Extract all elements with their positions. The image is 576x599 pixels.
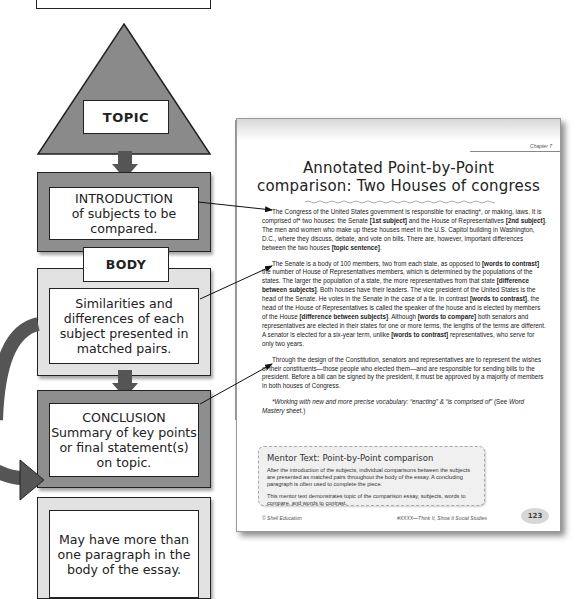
footer-book-title: #XXXX—Think It, Show It Social Studies xyxy=(397,515,487,521)
title-underline xyxy=(305,199,495,205)
mentor-text-box: Mentor Text: Point-by-Point comparison A… xyxy=(258,446,485,506)
title-line-2: comparison: Two Houses of congress xyxy=(237,177,560,195)
topic-label: TOPIC xyxy=(83,100,169,134)
introduction-box: INTRODUCTION of subjects to be compared. xyxy=(49,187,199,240)
conclusion-text: Summary of key points or final statement… xyxy=(50,425,198,470)
page-number: 123 xyxy=(521,508,549,524)
footer-publisher: © Shell Education xyxy=(262,515,302,521)
chapter-rule xyxy=(470,151,560,152)
paragraph-body: The Senate is a body of 100 members, two… xyxy=(262,260,547,349)
text-run: . xyxy=(380,244,382,251)
conclusion-heading: CONCLUSION xyxy=(82,410,166,425)
annotation-tag: [topic sentence] xyxy=(332,244,380,251)
body-box: Similarities and differences of each sub… xyxy=(49,288,199,364)
curved-arrow-icon xyxy=(0,300,50,540)
introduction-section: INTRODUCTION of subjects to be compared. xyxy=(37,172,211,252)
mentor-paragraph-2: This mentor text demonstrates topic of t… xyxy=(267,493,476,507)
introduction-text: of subjects to be compared. xyxy=(50,206,198,236)
introduction-heading: INTRODUCTION xyxy=(75,191,173,206)
text-run: the number of House of Representatives m… xyxy=(262,268,533,284)
page-top-shadow xyxy=(237,119,560,141)
note-text: May have more than one paragraph in the … xyxy=(50,532,198,577)
document-title: Annotated Point-by-Point comparison: Two… xyxy=(237,159,560,195)
chapter-label: Chapter 7 xyxy=(530,143,552,149)
annotation-tag: [words to contrast] xyxy=(391,331,448,338)
text-run: (See xyxy=(494,398,509,405)
body-label: BODY xyxy=(83,247,169,282)
top-box xyxy=(36,0,211,9)
annotation-tag: [words to contrast] xyxy=(470,295,527,302)
annotation-tag: [words to compare] xyxy=(418,313,476,320)
annotation-tag: [1st subject] xyxy=(370,217,407,224)
mentor-paragraph-1: After the introduction of the subjects, … xyxy=(267,467,476,489)
document-page: Chapter 7 Annotated Point-by-Point compa… xyxy=(236,118,561,532)
body-section: Similarities and differences of each sub… xyxy=(37,268,211,376)
annotation-tag: [words to contrast] xyxy=(482,260,539,267)
mentor-title: Mentor Text: Point-by-Point comparison xyxy=(267,453,476,463)
note-section: May have more than one paragraph in the … xyxy=(37,497,211,599)
paragraph-intro: The Congress of the United States govern… xyxy=(262,208,547,253)
topic-triangle xyxy=(36,22,212,157)
text-run: and the House of Representatives xyxy=(407,217,506,224)
body-text: Similarities and differences of each sub… xyxy=(50,296,198,356)
conclusion-section: CONCLUSION Summary of key points or fina… xyxy=(37,390,211,488)
text-run: *Working with new and more precise vocab… xyxy=(272,398,494,405)
paragraph-conclusion: Through the design of the Constitution, … xyxy=(262,356,547,392)
vocabulary-note: *Working with new and more precise vocab… xyxy=(262,398,547,416)
text-run: Through the design of the Constitution, … xyxy=(262,356,543,390)
text-run: . Although xyxy=(388,313,418,320)
title-line-1: Annotated Point-by-Point xyxy=(237,159,560,177)
annotation-tag: [2nd subject] xyxy=(506,217,545,224)
document-body: The Congress of the United States govern… xyxy=(262,208,547,423)
text-run: The Senate is a body of 100 members, two… xyxy=(272,260,482,267)
annotation-tag: [difference between subjects] xyxy=(299,313,388,320)
text-run: sheet.) xyxy=(284,407,305,414)
note-box: May have more than one paragraph in the … xyxy=(49,510,199,598)
conclusion-box: CONCLUSION Summary of key points or fina… xyxy=(49,403,199,477)
